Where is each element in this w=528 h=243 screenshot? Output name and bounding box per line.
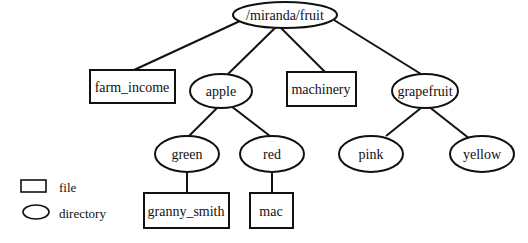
file-rect-icon [21, 180, 46, 192]
node-root-directory: /miranda/fruit [233, 2, 337, 28]
edge-grapefruit-yellow [428, 106, 470, 139]
edge-apple-red [231, 106, 270, 136]
legend-file: file [21, 180, 77, 195]
node-label: red [263, 147, 281, 162]
node-grapefruit-directory: grapefruit [392, 74, 458, 108]
node-label: pink [359, 147, 384, 162]
edge-root-farm-income [134, 21, 240, 70]
directory-tree-diagram: /miranda/fruit farm_income apple machine… [0, 0, 528, 243]
node-label: yellow [463, 147, 502, 162]
legend: file directory [21, 180, 106, 221]
node-label: /miranda/fruit [246, 8, 324, 23]
edge-root-grapefruit [334, 20, 421, 74]
node-yellow-directory: yellow [450, 136, 514, 172]
node-label: granny_smith [148, 204, 225, 219]
node-machinery-file: machinery [287, 72, 356, 106]
edge-root-apple [228, 27, 276, 74]
edge-apple-green [189, 108, 217, 136]
node-apple-directory: apple [190, 74, 252, 108]
node-mac-file: mac [250, 193, 293, 228]
node-label: mac [259, 204, 282, 219]
node-label: grapefruit [397, 84, 452, 99]
legend-directory: directory [23, 205, 106, 221]
legend-file-label: file [59, 180, 77, 195]
node-label: apple [206, 84, 236, 99]
legend-directory-label: directory [59, 206, 106, 221]
node-label: machinery [291, 82, 350, 97]
node-red-directory: red [240, 136, 304, 172]
node-pink-directory: pink [339, 136, 403, 172]
edge-grapefruit-pink [386, 108, 421, 136]
directory-ellipse-icon [23, 205, 49, 219]
node-label: green [171, 147, 202, 162]
node-label: farm_income [95, 80, 170, 95]
node-green-directory: green [155, 136, 219, 172]
edge-root-machinery [280, 27, 325, 72]
node-farm-income-file: farm_income [90, 70, 175, 103]
node-granny-smith-file: granny_smith [144, 193, 229, 228]
